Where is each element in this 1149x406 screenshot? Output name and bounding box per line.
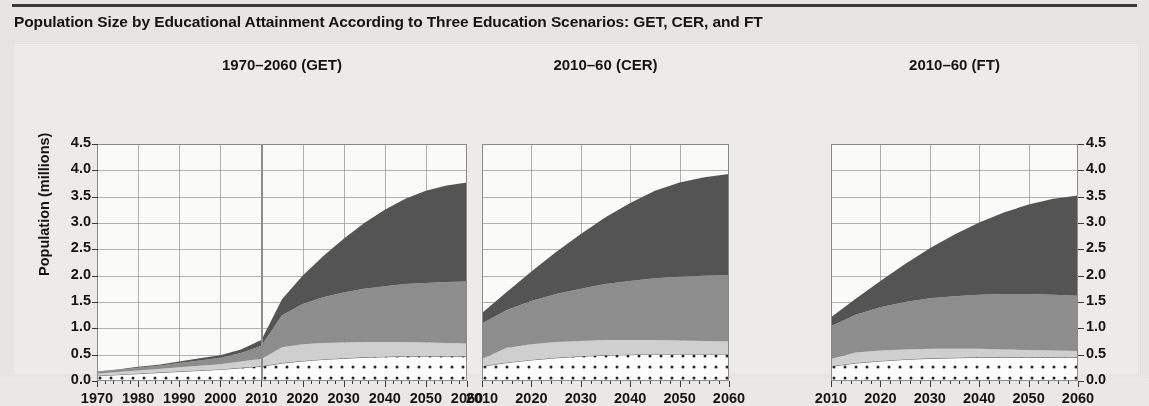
x-minor-tick-mark: [409, 381, 410, 384]
stacked-area-get: [97, 144, 467, 381]
x-minor-tick-mark: [610, 381, 611, 384]
x-minor-tick-mark: [910, 381, 911, 384]
x-minor-tick-mark: [551, 381, 552, 384]
x-minor-tick-mark: [319, 381, 320, 384]
x-minor-tick-mark: [950, 381, 951, 384]
x-minor-tick-mark: [940, 381, 941, 384]
x-minor-tick-mark: [871, 381, 872, 384]
y-tick-mark-right: [1078, 223, 1084, 224]
stacked-area-ft: [831, 144, 1078, 381]
x-minor-tick-mark: [122, 381, 123, 384]
x-tick-label: 2010: [806, 390, 856, 406]
y-tick-mark: [92, 302, 98, 303]
figure-body: Population (millions) 4.54.03.53.02.52.0…: [14, 44, 1138, 374]
x-minor-tick-mark: [171, 381, 172, 384]
x-minor-tick-mark: [571, 381, 572, 384]
x-minor-tick-mark: [851, 381, 852, 384]
x-minor-tick-mark: [640, 381, 641, 384]
x-tick-mark: [482, 381, 483, 387]
x-minor-tick-mark: [204, 381, 205, 384]
x-tick-mark: [138, 381, 139, 387]
x-minor-tick-mark: [591, 381, 592, 384]
x-tick-mark: [979, 381, 980, 387]
x-minor-tick-mark: [660, 381, 661, 384]
x-tick-label: 2040: [954, 390, 1004, 406]
x-minor-tick-mark: [146, 381, 147, 384]
y-tick-label: 2.0: [50, 266, 91, 282]
y-tick-mark: [92, 223, 98, 224]
y-tick-label: 3.0: [50, 213, 91, 229]
y-tick-label-right: 2.5: [1086, 239, 1106, 255]
x-tick-mark: [630, 381, 631, 387]
y-tick-mark-right: [1078, 197, 1084, 198]
x-tick-label: 2050: [655, 390, 705, 406]
y-tick-mark: [92, 249, 98, 250]
x-tick-label: 2030: [905, 390, 955, 406]
plot-area-cer: [482, 144, 729, 381]
y-tick-label-right: 1.5: [1086, 292, 1106, 308]
y-tick-label: 1.5: [50, 292, 91, 308]
x-minor-tick-mark: [861, 381, 862, 384]
x-minor-tick-mark: [719, 381, 720, 384]
x-tick-label: 2020: [855, 390, 905, 406]
y-tick-mark-right: [1078, 170, 1084, 171]
x-minor-tick-mark: [105, 381, 106, 384]
y-tick-label: 3.5: [50, 187, 91, 203]
x-minor-tick-mark: [999, 381, 1000, 384]
x-tick-label: 2060: [704, 390, 754, 406]
panel-title-cer: 2010–60 (CER): [482, 56, 729, 73]
x-minor-tick-mark: [959, 381, 960, 384]
x-minor-tick-mark: [920, 381, 921, 384]
stacked-area-cer: [482, 144, 729, 381]
panel-title-get: 1970–2060 (GET): [97, 56, 467, 73]
x-minor-tick-mark: [327, 381, 328, 384]
x-tick-mark: [220, 381, 221, 387]
x-tick-mark: [426, 381, 427, 387]
x-minor-tick-mark: [163, 381, 164, 384]
x-tick-mark: [880, 381, 881, 387]
y-tick-label-right: 4.5: [1086, 134, 1106, 150]
x-tick-label: 2050: [1004, 390, 1054, 406]
x-tick-label: 2030: [556, 390, 606, 406]
x-minor-tick-mark: [841, 381, 842, 384]
x-minor-tick-mark: [130, 381, 131, 384]
x-minor-tick-mark: [229, 381, 230, 384]
y-tick-label-right: 3.0: [1086, 213, 1106, 229]
x-tick-mark: [179, 381, 180, 387]
x-tick-mark: [261, 381, 262, 387]
y-tick-label-right: 2.0: [1086, 266, 1106, 282]
y-tick-mark: [92, 276, 98, 277]
x-minor-tick-mark: [989, 381, 990, 384]
x-minor-tick-mark: [541, 381, 542, 384]
projection-start-marker: [261, 144, 263, 381]
x-minor-tick-mark: [294, 381, 295, 384]
x-minor-tick-mark: [352, 381, 353, 384]
x-minor-tick-mark: [335, 381, 336, 384]
x-minor-tick-mark: [311, 381, 312, 384]
x-minor-tick-mark: [620, 381, 621, 384]
x-minor-tick-mark: [1019, 381, 1020, 384]
x-minor-tick-mark: [512, 381, 513, 384]
y-tick-label: 4.0: [50, 160, 91, 176]
x-tick-label: 2060: [1053, 390, 1103, 406]
x-minor-tick-mark: [212, 381, 213, 384]
x-minor-tick-mark: [434, 381, 435, 384]
y-tick-mark: [92, 170, 98, 171]
x-minor-tick-mark: [360, 381, 361, 384]
x-tick-mark: [303, 381, 304, 387]
y-tick-label-right: 0.5: [1086, 345, 1106, 361]
y-tick-mark-right: [1078, 144, 1084, 145]
y-tick-mark-right: [1078, 355, 1084, 356]
y-tick-label: 0.5: [50, 345, 91, 361]
x-minor-tick-mark: [689, 381, 690, 384]
x-minor-tick-mark: [368, 381, 369, 384]
x-tick-mark: [930, 381, 931, 387]
x-minor-tick-mark: [270, 381, 271, 384]
x-minor-tick-mark: [451, 381, 452, 384]
y-tick-mark-right: [1078, 302, 1084, 303]
x-minor-tick-mark: [442, 381, 443, 384]
y-tick-label-right: 1.0: [1086, 318, 1106, 334]
x-minor-tick-mark: [155, 381, 156, 384]
y-tick-label: 1.0: [50, 318, 91, 334]
x-tick-label: 2010: [457, 390, 507, 406]
